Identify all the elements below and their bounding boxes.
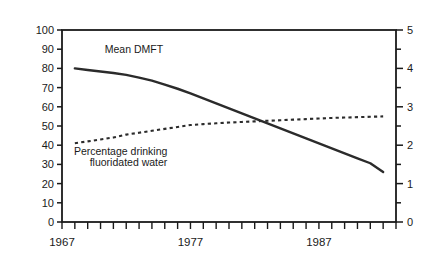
chart-container: Percentage drinking fluoridated water Me… [0,0,447,279]
y-tick-label-left: 60 [42,101,54,113]
annotation-label: fluoridated water [90,156,168,168]
x-tick-label: 1967 [49,236,75,248]
annotation-label: Mean DMFT [105,43,164,55]
y-tick-label-left: 100 [36,24,54,36]
y-tick-label-left: 80 [42,62,54,74]
x-tick-label: 1977 [178,236,204,248]
y-tick-label-left: 10 [42,197,54,209]
y-tick-label-right: 3 [407,101,413,113]
y-tick-label-right: 0 [407,216,413,228]
y-tick-label-right: 5 [407,24,413,36]
y-tick-label-left: 20 [42,178,54,190]
y-tick-label-left: 30 [42,158,54,170]
y-tick-label-left: 0 [48,216,54,228]
plot-area: 0102030405060708090100 012345 1967197719… [0,0,447,279]
y-tick-label-left: 70 [42,82,54,94]
y-tick-label-right: 1 [407,178,413,190]
y-tick-label-left: 50 [42,120,54,132]
y-tick-label-right: 2 [407,139,413,151]
x-tick-label: 1987 [306,236,332,248]
annotation-label: Percentage drinking [74,145,168,157]
y-tick-label-right: 4 [407,62,413,74]
y-tick-label-left: 40 [42,139,54,151]
y-tick-label-left: 90 [42,43,54,55]
